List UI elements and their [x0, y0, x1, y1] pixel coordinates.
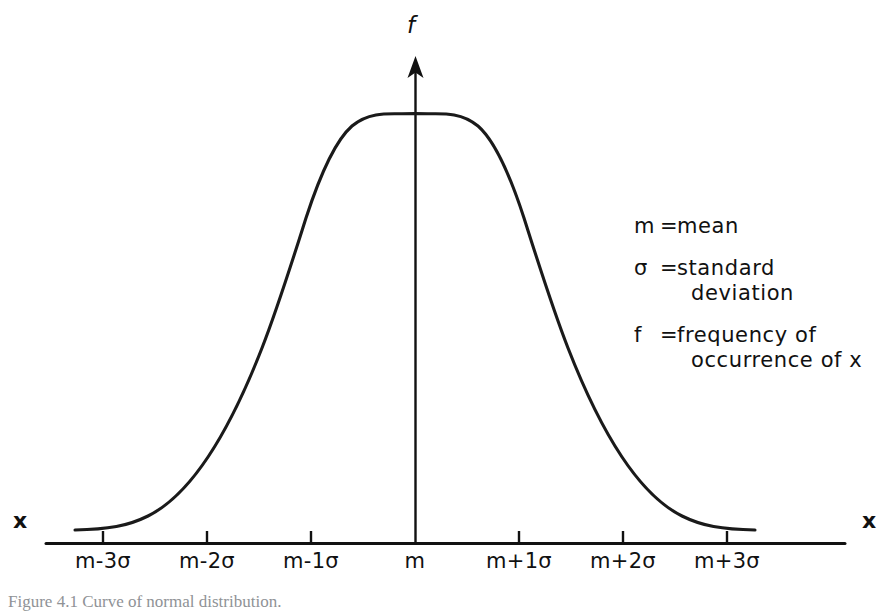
- legend-definition: standarddeviation: [677, 256, 794, 307]
- tick-label: m-2σ: [179, 549, 235, 573]
- x-axis-tick-labels: m-3σ m-2σ m-1σ m m+1σ m+2σ m+3σ: [0, 549, 891, 579]
- figure-caption: Figure 4.1 Curve of normal distribution.: [8, 592, 281, 612]
- legend: m = mean σ = standarddeviation f = frequ…: [634, 214, 884, 390]
- legend-symbol: f: [634, 323, 660, 349]
- legend-item-standard-deviation: σ = standarddeviation: [634, 256, 884, 307]
- legend-equals: =: [660, 214, 677, 240]
- tick-label: m+3σ: [694, 549, 760, 573]
- tick-label: m+1σ: [486, 549, 552, 573]
- legend-item-frequency: f = frequency ofoccurrence of x: [634, 323, 884, 374]
- tick-label: m: [405, 549, 426, 573]
- legend-definition-text: mean: [677, 214, 739, 238]
- y-axis-label: f: [407, 12, 415, 38]
- legend-definition: mean: [677, 214, 739, 240]
- legend-equals: =: [660, 256, 677, 282]
- legend-equals: =: [660, 323, 677, 349]
- tick-label: m-1σ: [283, 549, 339, 573]
- x-axis-right-label: x: [862, 508, 876, 533]
- x-axis-left-label: x: [13, 508, 27, 533]
- legend-symbol: m: [634, 214, 660, 240]
- legend-definition-text: standard: [677, 256, 775, 280]
- legend-definition-continuation: deviation: [677, 281, 794, 307]
- legend-symbol: σ: [634, 256, 660, 282]
- tick-label: m+2σ: [590, 549, 656, 573]
- legend-item-mean: m = mean: [634, 214, 884, 240]
- legend-definition-continuation: occurrence of x: [677, 348, 862, 374]
- legend-definition: frequency ofoccurrence of x: [677, 323, 862, 374]
- tick-label: m-3σ: [75, 549, 131, 573]
- legend-definition-text: frequency of: [677, 323, 816, 347]
